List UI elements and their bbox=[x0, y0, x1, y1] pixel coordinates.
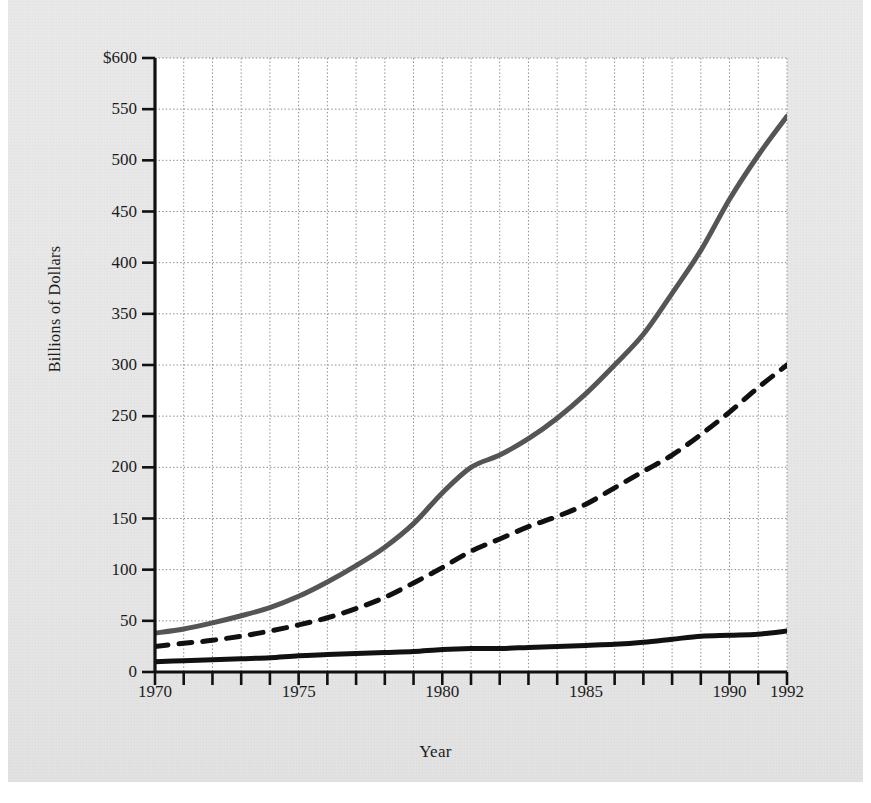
plot-area bbox=[0, 0, 871, 803]
page-canvas: Billions of Dollars Year 050100150200250… bbox=[0, 0, 871, 803]
chart-figure: Billions of Dollars Year 050100150200250… bbox=[0, 0, 871, 803]
